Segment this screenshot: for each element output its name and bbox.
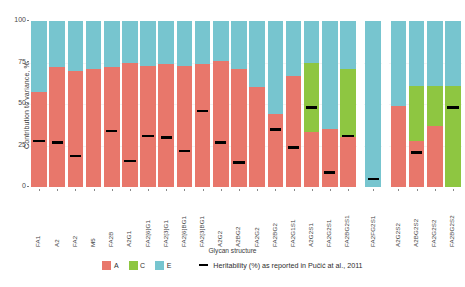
bar-segment-a	[68, 71, 84, 187]
stacked-bar[interactable]	[158, 21, 174, 187]
x-tick-label: A2G1	[125, 189, 132, 247]
bar-slot	[339, 21, 357, 187]
stacked-bar[interactable]	[427, 21, 443, 187]
bar-slot	[66, 21, 84, 187]
x-tick-label: A2BG2	[234, 189, 241, 247]
bar-segment-a	[195, 64, 211, 187]
heritability-marker	[270, 128, 281, 131]
bar-segment-a	[158, 64, 174, 187]
heritability-marker	[124, 160, 135, 163]
bar-segment-a	[322, 129, 338, 187]
bar-segment-c	[409, 86, 425, 141]
bar-segment-c	[427, 86, 443, 126]
x-tick-label: A2BG2S2	[412, 189, 419, 247]
bar-slot	[48, 21, 66, 187]
bar-slot	[212, 21, 230, 187]
stacked-bar[interactable]	[365, 21, 381, 187]
legend-item-e[interactable]: E	[155, 261, 171, 270]
bar-segment-e	[177, 21, 193, 66]
bar-segment-a	[213, 61, 229, 187]
bar-segment-a	[140, 66, 156, 187]
legend-item-a[interactable]: A	[102, 261, 118, 270]
x-axis-tick-labels: FA1A2FA2M5FA2BA2G1FA2[6]G1FA2[3]G1FA2[6]…	[0, 189, 465, 249]
legend-item-c[interactable]: C	[129, 261, 146, 270]
stacked-bar[interactable]	[195, 21, 211, 187]
stacked-bar[interactable]	[104, 21, 120, 187]
x-tick-label: FA2G2S1	[325, 189, 332, 247]
bar-segment-a	[340, 137, 356, 187]
heritability-marker	[142, 135, 153, 138]
bar-segment-e	[158, 21, 174, 64]
bar-segment-e	[68, 21, 84, 71]
bar-slot	[248, 21, 266, 187]
bar-slot	[444, 21, 462, 187]
plot-panel-0	[30, 21, 357, 187]
x-tick-label: FA2[3]G1	[162, 189, 169, 247]
stacked-bar[interactable]	[177, 21, 193, 187]
x-tick-label: FA2BG2S2	[448, 189, 455, 247]
bar-segment-c	[304, 63, 320, 133]
heritability-marker	[70, 155, 81, 158]
bar-slot	[321, 21, 339, 187]
stacked-bar[interactable]	[304, 21, 320, 187]
stacked-bar[interactable]	[409, 21, 425, 187]
stacked-bar[interactable]	[391, 21, 407, 187]
stacked-bar[interactable]	[86, 21, 102, 187]
bar-slot	[157, 21, 175, 187]
bar-segment-e	[86, 21, 102, 69]
bar-segment-e	[122, 21, 138, 63]
stacked-bar[interactable]	[49, 21, 65, 187]
x-tick-label: FA2[6]G1	[144, 189, 151, 247]
bar-slot	[364, 21, 382, 187]
bar-slot	[85, 21, 103, 187]
stacked-bar[interactable]	[340, 21, 356, 187]
bar-segment-a	[304, 132, 320, 187]
legend-heritability-label: Heritability (%) as reported in Pučić at…	[213, 261, 362, 270]
x-tick-label: FA2G2S2	[430, 189, 437, 247]
stacked-bar[interactable]	[231, 21, 247, 187]
x-axis-title: Glycan structure	[0, 247, 465, 254]
stacked-bar[interactable]	[122, 21, 138, 187]
x-tick-label: FA2B	[107, 189, 114, 247]
legend-label-c: C	[140, 262, 145, 269]
bar-slot	[407, 21, 425, 187]
bar-slot	[194, 21, 212, 187]
bar-segment-a	[268, 114, 284, 187]
bar-segment-e	[49, 21, 65, 67]
heritability-marker	[52, 141, 63, 144]
stacked-bar[interactable]	[140, 21, 156, 187]
bar-segment-e	[104, 21, 120, 67]
legend-series: ACE	[102, 261, 177, 270]
stacked-bar[interactable]	[68, 21, 84, 187]
stacked-bar[interactable]	[286, 21, 302, 187]
stacked-bar[interactable]	[445, 21, 461, 187]
bar-segment-e	[286, 21, 302, 76]
x-tick-label: M5	[89, 189, 96, 247]
x-tick-label: FA2G1S1	[289, 189, 296, 247]
bar-segment-c	[445, 86, 461, 187]
x-tick-label: A2G2S1	[307, 189, 314, 247]
x-tick-label: FA2BG2	[271, 189, 278, 247]
bar-segment-c	[340, 69, 356, 137]
bar-segment-a	[427, 126, 443, 187]
bar-segment-e	[304, 21, 320, 63]
bar-segment-a	[286, 76, 302, 187]
stacked-bar[interactable]	[322, 21, 338, 187]
bar-segment-e	[322, 21, 338, 129]
x-tick-label: FA2	[71, 189, 78, 247]
bar-segment-e	[31, 21, 47, 92]
x-tick-label: A2	[53, 189, 60, 247]
bar-segment-a	[122, 63, 138, 188]
stacked-bar[interactable]	[213, 21, 229, 187]
bar-segment-a	[49, 67, 65, 187]
x-tick-label: FA2FG2S1	[369, 189, 376, 247]
x-tick-label: A2G2S2	[394, 189, 401, 247]
stacked-bar[interactable]	[268, 21, 284, 187]
x-tick-label: FA2G2	[253, 189, 260, 247]
bar-segment-a	[86, 69, 102, 187]
stacked-bar[interactable]	[249, 21, 265, 187]
stacked-bar[interactable]	[31, 21, 47, 187]
bar-segment-a	[409, 141, 425, 187]
bar-segment-a	[231, 69, 247, 187]
bars-row	[389, 21, 462, 187]
